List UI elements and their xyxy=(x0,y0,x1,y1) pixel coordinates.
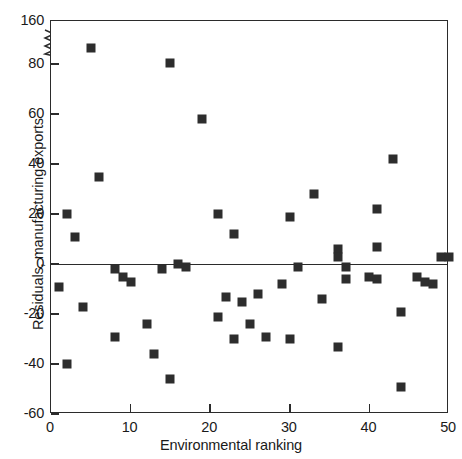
x-axis-tick xyxy=(289,404,291,412)
data-point xyxy=(62,360,71,369)
y-axis-tick xyxy=(51,413,59,415)
data-point xyxy=(70,232,79,241)
data-point xyxy=(317,295,326,304)
data-point xyxy=(373,205,382,214)
data-point xyxy=(341,275,350,284)
data-point xyxy=(261,332,270,341)
data-point xyxy=(397,382,406,391)
data-point xyxy=(214,312,223,321)
data-point xyxy=(230,230,239,239)
y-axis-tick xyxy=(51,313,59,315)
zero-reference-line xyxy=(51,264,447,265)
x-axis-tick-label: 10 xyxy=(122,419,138,435)
x-axis-tick-label: 40 xyxy=(361,419,377,435)
data-point xyxy=(365,272,374,281)
data-point xyxy=(78,302,87,311)
data-point xyxy=(158,265,167,274)
y-axis-tick-label: 160 xyxy=(0,12,44,28)
data-point xyxy=(166,375,175,384)
data-point xyxy=(118,272,127,281)
data-point xyxy=(238,297,247,306)
data-point xyxy=(333,245,342,254)
data-point xyxy=(413,272,422,281)
data-point xyxy=(110,332,119,341)
x-axis-title: Environmental ranking xyxy=(0,437,462,453)
data-point xyxy=(198,115,207,124)
data-point xyxy=(333,252,342,261)
x-axis-tick xyxy=(369,404,371,412)
y-axis-title: Residuals, manufacturing exports xyxy=(30,94,46,354)
data-point xyxy=(421,277,430,286)
scatter-plot-figure: 160806040200-20-40-60 01020304050 Enviro… xyxy=(0,0,462,459)
data-point xyxy=(86,43,95,52)
data-point xyxy=(285,335,294,344)
data-point xyxy=(142,320,151,329)
data-point xyxy=(397,307,406,316)
y-axis-tick xyxy=(51,63,59,65)
x-axis-tick-label: 0 xyxy=(46,419,54,435)
data-point xyxy=(110,265,119,274)
y-axis-tick xyxy=(51,113,59,115)
data-point xyxy=(54,282,63,291)
data-point xyxy=(214,210,223,219)
data-point xyxy=(222,292,231,301)
data-point xyxy=(389,155,398,164)
y-axis-tick xyxy=(51,163,59,165)
y-axis-tick-label: -60 xyxy=(0,405,44,421)
y-axis-tick xyxy=(51,363,59,365)
data-point xyxy=(230,335,239,344)
data-point xyxy=(373,242,382,251)
data-point xyxy=(126,277,135,286)
data-point xyxy=(246,320,255,329)
data-point xyxy=(166,58,175,67)
x-axis-tick-label: 20 xyxy=(201,419,217,435)
x-axis-tick-label: 50 xyxy=(440,419,456,435)
data-point xyxy=(285,212,294,221)
y-axis-tick-label: -40 xyxy=(0,355,44,371)
y-axis-tick xyxy=(51,263,59,265)
x-axis-tick xyxy=(130,404,132,412)
data-point xyxy=(62,210,71,219)
x-axis-tick-label: 30 xyxy=(281,419,297,435)
data-point xyxy=(333,342,342,351)
data-point xyxy=(277,280,286,289)
data-point xyxy=(94,172,103,181)
data-point xyxy=(445,252,454,261)
data-point xyxy=(150,350,159,359)
y-axis-tick xyxy=(51,213,59,215)
data-points-layer xyxy=(51,21,447,412)
data-point xyxy=(437,252,446,261)
data-point xyxy=(373,275,382,284)
data-point xyxy=(253,290,262,299)
data-point xyxy=(309,190,318,199)
data-point xyxy=(429,280,438,289)
y-axis-tick-label: 80 xyxy=(0,55,44,71)
plot-area xyxy=(50,20,448,413)
x-axis-tick xyxy=(209,404,211,412)
